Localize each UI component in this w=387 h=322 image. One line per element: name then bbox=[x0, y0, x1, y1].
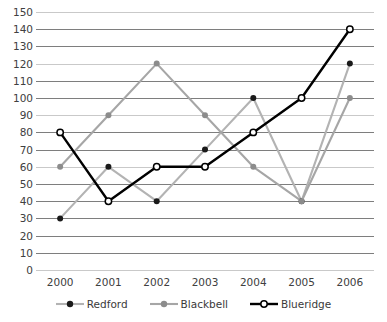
line-chart: 1501401301201101009080706050403020100 20… bbox=[0, 0, 387, 322]
data-point bbox=[105, 198, 111, 204]
series-layer bbox=[0, 0, 387, 322]
data-point bbox=[154, 198, 160, 204]
data-point bbox=[347, 61, 353, 67]
data-point bbox=[250, 164, 256, 170]
data-point bbox=[57, 164, 63, 170]
data-point bbox=[105, 112, 111, 118]
legend-marker-icon bbox=[250, 299, 278, 309]
data-point bbox=[154, 164, 160, 170]
data-point bbox=[202, 147, 208, 153]
data-point bbox=[202, 112, 208, 118]
data-point bbox=[347, 95, 353, 101]
chart-legend: RedfordBlackbellBlueridge bbox=[0, 299, 387, 310]
legend-marker-icon bbox=[56, 299, 84, 309]
legend-item-blackbell[interactable]: Blackbell bbox=[150, 299, 228, 310]
data-point bbox=[250, 95, 256, 101]
legend-item-blueridge[interactable]: Blueridge bbox=[250, 299, 331, 310]
data-point bbox=[154, 61, 160, 67]
data-point bbox=[347, 26, 353, 32]
legend-item-redford[interactable]: Redford bbox=[56, 299, 128, 310]
data-point bbox=[57, 129, 63, 135]
data-point bbox=[298, 95, 304, 101]
data-point bbox=[299, 198, 305, 204]
data-point bbox=[105, 164, 111, 170]
data-point bbox=[250, 129, 256, 135]
series-line bbox=[60, 64, 350, 202]
data-point bbox=[57, 215, 63, 221]
data-point bbox=[202, 164, 208, 170]
legend-label: Redford bbox=[87, 299, 128, 310]
legend-label: Blueridge bbox=[281, 299, 331, 310]
legend-label: Blackbell bbox=[181, 299, 228, 310]
series-redford bbox=[57, 61, 353, 222]
legend-marker-icon bbox=[150, 299, 178, 309]
